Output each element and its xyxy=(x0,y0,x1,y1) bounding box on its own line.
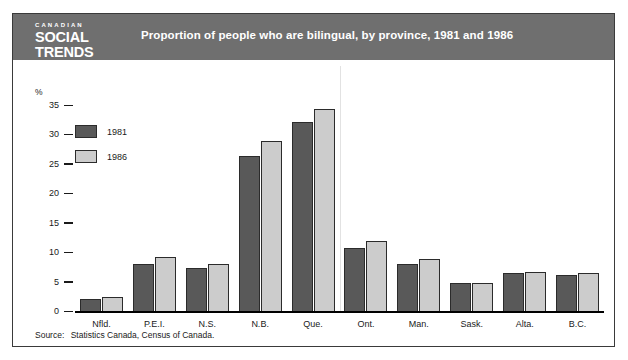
bar-group xyxy=(80,60,123,312)
y-axis-tick-mark xyxy=(64,134,73,136)
y-axis-tick-mark xyxy=(64,163,73,165)
x-axis-label: B.C. xyxy=(546,318,610,331)
source-note: Source: Statistics Canada, Census of Can… xyxy=(35,330,214,340)
figure-panel: CANADIAN SOCIAL TRENDS Proportion of peo… xyxy=(12,13,615,347)
masthead-logo: CANADIAN SOCIAL TRENDS xyxy=(35,18,121,60)
y-axis-tick-label: 25 xyxy=(49,159,59,169)
y-axis-tick-mark xyxy=(64,222,73,224)
bar-group xyxy=(292,60,335,312)
bar-group xyxy=(133,60,176,312)
y-axis-tick: 15 xyxy=(27,218,73,228)
bar-Sask-1981 xyxy=(450,283,471,312)
bar-NB-1986 xyxy=(261,141,282,312)
y-axis-tick-label: 0 xyxy=(54,306,59,316)
bar-group xyxy=(556,60,599,312)
bar-group xyxy=(450,60,493,312)
bar-NB-1981 xyxy=(239,156,260,312)
y-axis-tick: 0 xyxy=(27,306,73,316)
y-axis-tick-label: 10 xyxy=(49,247,59,257)
bar-NS-1981 xyxy=(186,268,207,312)
bar-group xyxy=(397,60,440,312)
bar-group xyxy=(503,60,546,312)
bar-Ont-1986 xyxy=(366,241,387,312)
bar-NS-1986 xyxy=(208,264,229,312)
bar-Alta-1986 xyxy=(525,272,546,312)
bars-layer xyxy=(75,60,604,312)
y-axis-tick-mark xyxy=(64,105,73,107)
bar-PEI-1986 xyxy=(155,257,176,312)
y-axis-tick: 10 xyxy=(27,247,73,257)
bar-Man-1981 xyxy=(397,264,418,312)
y-axis-tick: 5 xyxy=(27,277,73,287)
bar-Alta-1981 xyxy=(503,273,524,312)
bar-BC-1986 xyxy=(578,273,599,312)
bar-Que-1981 xyxy=(292,122,313,312)
y-axis-tick: 30 xyxy=(27,129,73,139)
chart-title: Proportion of people who are bilingual, … xyxy=(141,29,513,41)
source-text: Statistics Canada, Census of Canada. xyxy=(71,330,215,340)
y-axis-tick-mark xyxy=(64,252,73,254)
bar-PEI-1981 xyxy=(133,264,154,312)
y-axis-tick-mark xyxy=(64,281,73,283)
y-axis-unit-label: % xyxy=(35,87,43,97)
y-axis-tick-label: 20 xyxy=(49,188,59,198)
bar-group xyxy=(186,60,229,312)
masthead-line-social: SOCIAL xyxy=(35,30,121,45)
y-axis-tick-label: 15 xyxy=(49,218,59,228)
bar-Man-1986 xyxy=(419,259,440,312)
bar-Sask-1986 xyxy=(472,283,493,312)
bar-group xyxy=(239,60,282,312)
bar-group xyxy=(344,60,387,312)
y-axis-tick-mark xyxy=(64,311,73,313)
y-axis-tick: 20 xyxy=(27,188,73,198)
header-band: CANADIAN SOCIAL TRENDS Proportion of peo… xyxy=(13,14,614,60)
y-axis-tick-label: 35 xyxy=(49,100,59,110)
x-axis-baseline xyxy=(75,311,604,313)
y-axis-tick: 25 xyxy=(27,159,73,169)
bar-Nfld-1986 xyxy=(102,297,123,312)
y-axis-tick-label: 30 xyxy=(49,129,59,139)
source-label: Source: xyxy=(35,330,64,340)
bar-Ont-1981 xyxy=(344,248,365,312)
masthead-line-trends: TRENDS xyxy=(35,45,121,60)
plot-area: % 35302520151050 19811986 Nfld.P.E.I.N.S… xyxy=(13,60,614,348)
bar-Que-1986 xyxy=(314,109,335,312)
y-axis-tick-label: 5 xyxy=(54,277,59,287)
y-axis-tick: 35 xyxy=(27,100,73,110)
bar-BC-1981 xyxy=(556,275,577,312)
y-axis-tick-mark xyxy=(64,193,73,195)
